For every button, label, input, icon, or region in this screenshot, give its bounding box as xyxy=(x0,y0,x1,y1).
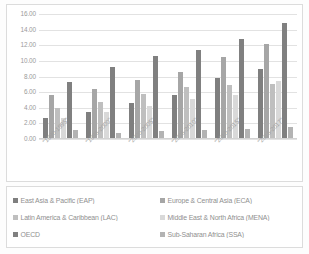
legend-swatch-icon xyxy=(160,232,165,237)
legend-item[interactable]: OECD xyxy=(13,231,160,238)
bar xyxy=(110,67,115,139)
y-axis-tick-label: 2.00 xyxy=(6,120,36,126)
legend-swatch-icon xyxy=(160,215,165,220)
legend-item[interactable]: Middle East & North Africa (MENA) xyxy=(160,214,305,221)
bar xyxy=(276,81,281,139)
y-axis-tick-label: 6.00 xyxy=(6,89,36,95)
x-axis-labels: "1990-1995""1995-2000""2000-2005""2005-2… xyxy=(39,140,297,184)
bar xyxy=(215,78,220,139)
legend-item[interactable]: Europe & Central Asia (ECA) xyxy=(160,197,305,204)
legend-label: Latin America & Caribbean (LAC) xyxy=(21,214,118,221)
legend-label: East Asia & Pacific (EAP) xyxy=(21,197,95,204)
legend-label: Middle East & North Africa (MENA) xyxy=(168,214,270,221)
y-axis-tick-label: 14.00 xyxy=(6,26,36,32)
legend-item[interactable]: East Asia & Pacific (EAP) xyxy=(13,197,160,204)
plot-area xyxy=(39,14,297,139)
y-axis-tick-label: 4.00 xyxy=(6,105,36,111)
bar-groups xyxy=(39,14,297,139)
legend-label: Sub-Saharan Africa (SSA) xyxy=(168,231,244,238)
legend-item[interactable]: Latin America & Caribbean (LAC) xyxy=(13,214,160,221)
legend: East Asia & Pacific (EAP)Europe & Centra… xyxy=(6,186,303,248)
bar xyxy=(258,69,263,139)
legend-swatch-icon xyxy=(13,215,18,220)
bar xyxy=(153,56,158,139)
legend-label: Europe & Central Asia (ECA) xyxy=(168,197,252,204)
legend-swatch-icon xyxy=(13,198,18,203)
bar xyxy=(264,44,269,139)
legend-swatch-icon xyxy=(160,198,165,203)
bar xyxy=(196,50,201,139)
y-axis-tick-label: 8.00 xyxy=(6,73,36,79)
bar xyxy=(239,39,244,139)
y-axis-tick-label: 12.00 xyxy=(6,42,36,48)
legend-label: OECD xyxy=(21,231,40,238)
legend-grid: East Asia & Pacific (EAP)Europe & Centra… xyxy=(13,192,296,243)
y-axis-tick-label: 0.00 xyxy=(6,136,36,142)
y-axis-tick-label: 10.00 xyxy=(6,58,36,64)
chart-screenshot: 0.002.004.006.008.0010.0012.0014.0016.00… xyxy=(0,0,309,254)
legend-swatch-icon xyxy=(13,232,18,237)
chart-frame: 0.002.004.006.008.0010.0012.0014.0016.00… xyxy=(6,4,303,182)
legend-item[interactable]: Sub-Saharan Africa (SSA) xyxy=(160,231,305,238)
y-axis: 0.002.004.006.008.0010.0012.0014.0016.00 xyxy=(7,14,36,139)
y-axis-tick-label: 16.00 xyxy=(6,11,36,17)
